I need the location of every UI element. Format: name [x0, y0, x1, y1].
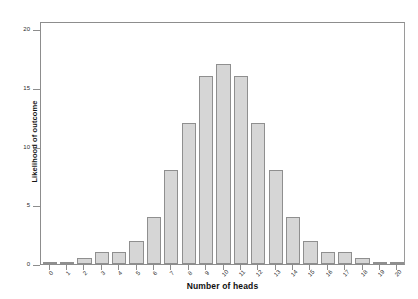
y-axis-tick — [33, 265, 40, 266]
bar — [303, 241, 317, 264]
bar — [216, 64, 230, 264]
bar — [269, 170, 283, 264]
bar — [338, 252, 352, 264]
y-axis-tick — [33, 206, 40, 207]
y-axis-tick-label: 5 — [0, 202, 30, 208]
bar — [286, 217, 300, 264]
bar — [355, 258, 369, 264]
y-axis-tick — [33, 89, 40, 90]
plot-area — [40, 22, 405, 265]
bar — [129, 241, 143, 264]
y-axis-title: Likelihood of outcome — [30, 62, 39, 222]
bar — [147, 217, 161, 264]
bar — [199, 76, 213, 264]
bar-series — [41, 23, 404, 264]
bar — [164, 170, 178, 264]
y-axis-tick-label: 0 — [0, 261, 30, 267]
bar — [234, 76, 248, 264]
binomial-histogram-figure: Likelihood of outcome 05101520 012345678… — [0, 0, 418, 299]
y-axis-tick-label: 20 — [0, 26, 30, 32]
bar — [251, 123, 265, 264]
bar — [95, 252, 109, 264]
y-axis-tick — [33, 148, 40, 149]
bar — [321, 252, 335, 264]
y-axis-tick-label: 15 — [0, 85, 30, 91]
bar — [112, 252, 126, 264]
y-axis-tick — [33, 30, 40, 31]
bar — [182, 123, 196, 264]
x-axis-title: Number of heads — [40, 281, 405, 291]
y-axis-tick-label: 10 — [0, 144, 30, 150]
